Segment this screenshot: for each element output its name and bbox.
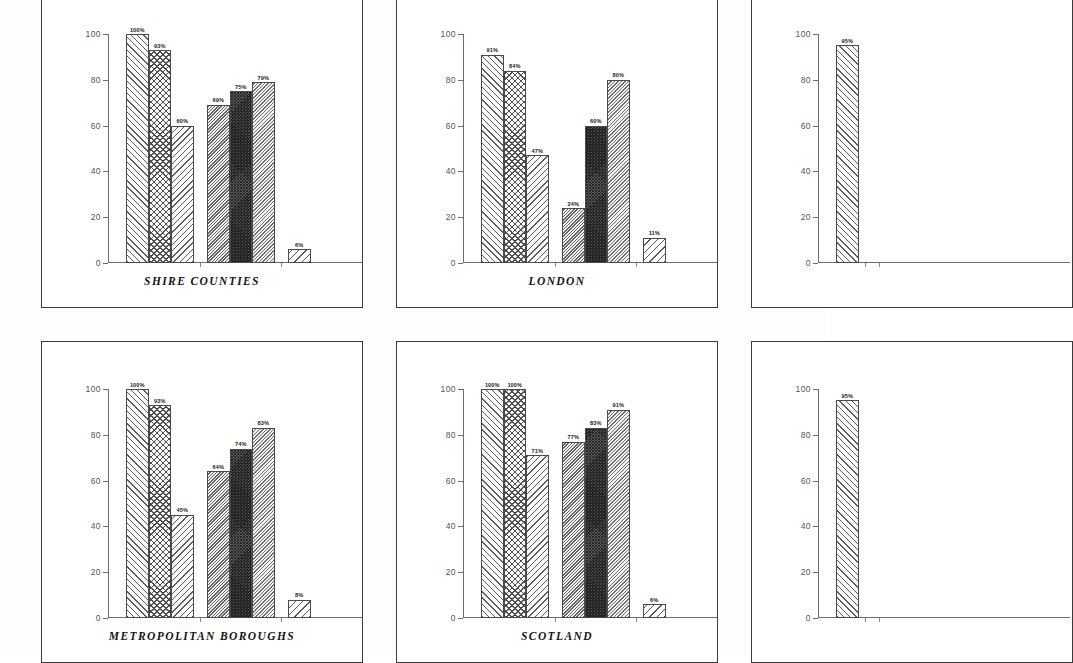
plot-area: 020406080100100%100%71%77%83%91%6% — [463, 389, 685, 618]
y-axis-tick — [813, 217, 818, 218]
y-axis-tick-label: 40 — [91, 166, 101, 176]
bar — [207, 471, 230, 618]
y-axis-tick — [458, 435, 463, 436]
y-axis-tick — [103, 263, 108, 264]
y-axis-tick-label: 80 — [91, 75, 101, 85]
y-axis-tick — [813, 34, 818, 35]
chart-title: LONDON — [529, 275, 586, 287]
bar — [481, 55, 504, 263]
bar — [562, 442, 585, 618]
y-axis-tick-label: 20 — [91, 212, 101, 222]
bar — [149, 405, 172, 618]
bar — [643, 238, 666, 263]
x-axis-tick — [555, 263, 556, 267]
bar-value-label: 93% — [154, 43, 166, 49]
y-axis-tick — [458, 481, 463, 482]
y-axis-tick — [458, 526, 463, 527]
y-axis-tick-label: 60 — [446, 121, 456, 131]
y-axis-tick-label: 80 — [446, 75, 456, 85]
y-axis-tick-label: 100 — [796, 29, 811, 39]
y-axis-tick — [103, 126, 108, 127]
bar-value-label: 74% — [235, 441, 247, 447]
chart-panel-shire-counties: 020406080100100%93%60%69%75%79%6%SHIRE C… — [41, 0, 363, 308]
bar-value-label: 6% — [650, 597, 658, 603]
y-axis-line — [108, 389, 109, 618]
bar — [562, 208, 585, 263]
y-axis-tick — [458, 34, 463, 35]
y-axis-line — [818, 389, 819, 618]
bar — [288, 249, 311, 263]
y-axis-tick — [458, 389, 463, 390]
bar-value-label: 95% — [842, 393, 854, 399]
bar-value-label: 60% — [590, 118, 602, 124]
y-axis-line — [463, 34, 464, 263]
chart-scotland: 020406080100100%100%71%77%83%91%6%SCOTLA… — [397, 342, 717, 662]
bar-value-label: 8% — [295, 592, 303, 598]
bar-value-label: 6% — [295, 242, 303, 248]
bar-value-label: 100% — [485, 382, 500, 388]
bar-value-label: 64% — [213, 464, 225, 470]
bar-value-label: 83% — [258, 420, 270, 426]
bar — [230, 449, 253, 618]
bar-value-label: 11% — [649, 230, 660, 236]
x-axis-tick — [879, 263, 880, 267]
y-axis-tick-label: 100 — [86, 384, 101, 394]
y-axis-tick — [103, 526, 108, 527]
y-axis-tick-label: 60 — [801, 121, 811, 131]
bar — [643, 604, 666, 618]
y-axis-tick-label: 100 — [441, 29, 456, 39]
y-axis-tick — [813, 126, 818, 127]
bar — [526, 155, 549, 263]
y-axis-tick-label: 100 — [796, 384, 811, 394]
bar-value-label: 100% — [130, 382, 145, 388]
bar — [585, 428, 608, 618]
y-axis-tick — [458, 171, 463, 172]
x-axis-tick — [636, 263, 637, 267]
y-axis-tick-label: 0 — [96, 258, 101, 268]
chart-title: SCOTLAND — [521, 630, 593, 642]
y-axis-tick-label: 80 — [446, 430, 456, 440]
bar-value-label: 24% — [568, 201, 580, 207]
chart-right-top-partial: 02040608010095% — [752, 0, 1072, 307]
bar-value-label: 80% — [613, 72, 625, 78]
y-axis-tick-label: 0 — [806, 258, 811, 268]
y-axis-tick-label: 60 — [801, 476, 811, 486]
plot-area: 020406080100100%93%60%69%75%79%6% — [108, 34, 330, 263]
y-axis-tick-label: 20 — [446, 567, 456, 577]
y-axis-tick — [458, 572, 463, 573]
plot-area: 02040608010095% — [818, 389, 1040, 618]
y-axis-tick-label: 100 — [86, 29, 101, 39]
y-axis-tick — [458, 263, 463, 264]
bar — [836, 400, 859, 618]
y-axis-line — [108, 34, 109, 263]
y-axis-tick — [458, 80, 463, 81]
chart-metropolitan-boroughs: 020406080100100%93%45%64%74%83%8%METROPO… — [42, 342, 362, 662]
chart-panel-scotland: 020406080100100%100%71%77%83%91%6%SCOTLA… — [396, 341, 718, 663]
y-axis-tick — [103, 481, 108, 482]
x-axis-tick — [865, 263, 866, 267]
y-axis-tick — [103, 389, 108, 390]
x-axis-tick — [865, 618, 866, 622]
bar — [526, 455, 549, 618]
x-axis-tick — [879, 618, 880, 622]
x-axis-tick — [200, 618, 201, 622]
bar — [585, 126, 608, 263]
bar — [126, 34, 149, 263]
y-axis-tick — [813, 80, 818, 81]
bar-value-label: 47% — [532, 148, 544, 154]
chart-title: SHIRE COUNTIES — [144, 275, 260, 287]
bar — [836, 45, 859, 263]
y-axis-tick-label: 20 — [801, 567, 811, 577]
bar-value-label: 83% — [590, 420, 602, 426]
bar — [149, 50, 172, 263]
y-axis-tick — [103, 572, 108, 573]
x-axis-tick — [281, 263, 282, 267]
bar-value-label: 77% — [568, 434, 580, 440]
chart-panel-metropolitan-boroughs: 020406080100100%93%45%64%74%83%8%METROPO… — [41, 341, 363, 663]
plot-area: 020406080100100%93%45%64%74%83%8% — [108, 389, 330, 618]
y-axis-tick-label: 40 — [801, 166, 811, 176]
y-axis-tick-label: 0 — [451, 258, 456, 268]
bar — [126, 389, 149, 618]
chart-panel-right-bottom-partial: 02040608010095% — [751, 341, 1073, 663]
